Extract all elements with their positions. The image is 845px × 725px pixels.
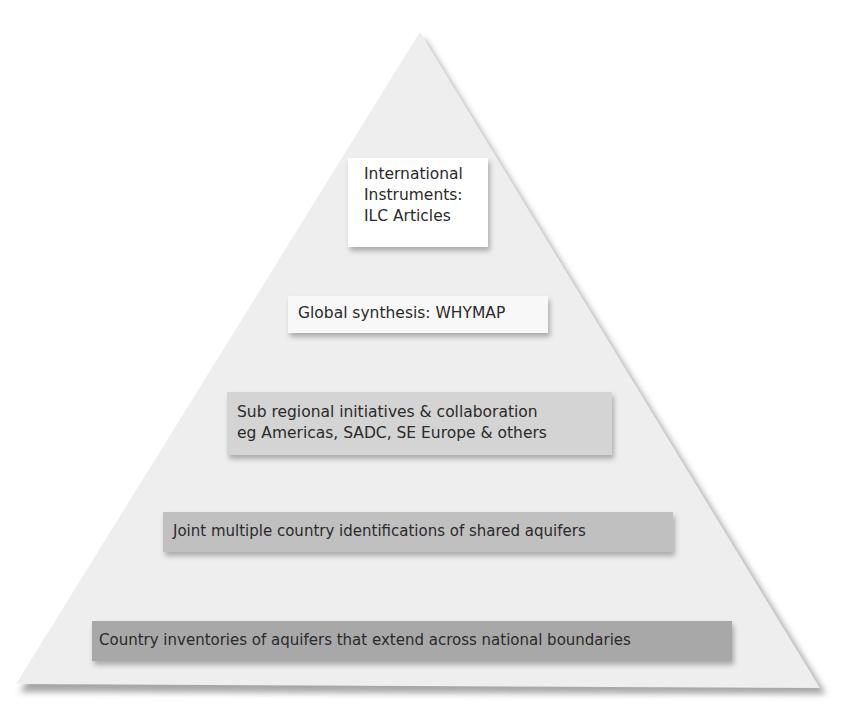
tier-3-line-2: eg Americas, SADC, SE Europe & others — [237, 423, 612, 444]
tier-1-line-2: Instruments: — [364, 185, 480, 206]
tier-international-instruments: International Instruments: ILC Articles — [348, 158, 488, 247]
tier-1-line-3: ILC Articles — [364, 206, 480, 227]
tier-global-synthesis: Global synthesis: WHYMAP — [288, 296, 548, 333]
tier-1-line-1: International — [364, 164, 480, 185]
tier-4-line-1: Joint multiple country identifications o… — [173, 521, 673, 542]
tier-5-line-1: Country inventories of aquifers that ext… — [99, 630, 732, 651]
tier-joint-country-identifications: Joint multiple country identifications o… — [163, 512, 673, 552]
tier-country-inventories: Country inventories of aquifers that ext… — [92, 621, 732, 661]
pyramid-diagram: International Instruments: ILC Articles … — [0, 0, 845, 725]
tier-sub-regional-initiatives: Sub regional initiatives & collaboration… — [227, 392, 612, 455]
pyramid-shape — [0, 0, 845, 725]
tier-3-line-1: Sub regional initiatives & collaboration — [237, 402, 612, 423]
tier-2-line-1: Global synthesis: WHYMAP — [298, 303, 548, 324]
